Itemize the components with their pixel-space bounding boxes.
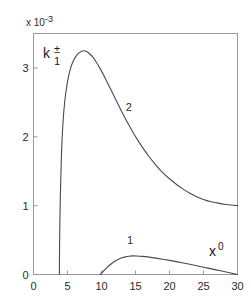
x-axis-title: x 0: [209, 241, 224, 259]
x-tick-label: 25: [197, 280, 209, 292]
y-axis-multiplier-exponent: -3: [45, 14, 53, 24]
x-axis-title-superscript: 0: [218, 241, 224, 252]
x-axis-title-base: x: [209, 243, 216, 259]
y-axis-title-base: k: [43, 45, 51, 61]
y-tick-label: 3: [22, 62, 28, 74]
y-axis-multiplier: x 10-3: [26, 14, 53, 28]
y-tick-label: 1: [22, 200, 28, 212]
chart-figure: 051015202530 0123 12 x 10-3 k ± 1 x 0: [0, 0, 251, 301]
y-axis-multiplier-base: x 10: [26, 17, 45, 28]
y-tick-label: 2: [22, 131, 28, 143]
curve-label-1: 1: [127, 234, 133, 246]
x-tick-label: 0: [30, 280, 36, 292]
curve-annotations: 12: [126, 101, 133, 247]
y-axis-title-superscript: ±: [54, 43, 60, 55]
x-tick-label: 10: [95, 280, 107, 292]
curve-series-2: [59, 51, 237, 275]
line-chart: 051015202530 0123 12 x 10-3 k ± 1 x 0: [0, 0, 251, 301]
y-axis-ticks: [34, 68, 38, 275]
y-axis-title-subscript: 1: [54, 55, 60, 67]
x-tick-label: 15: [129, 280, 141, 292]
x-tick-label: 20: [163, 280, 175, 292]
x-tick-label: 30: [231, 280, 243, 292]
y-axis-tick-labels: 0123: [22, 62, 28, 281]
data-curves: [59, 51, 237, 275]
x-tick-label: 5: [64, 280, 70, 292]
plot-frame: [34, 34, 238, 275]
x-axis-tick-labels: 051015202530: [30, 280, 243, 292]
y-tick-label: 0: [22, 269, 28, 281]
curve-series-1: [100, 256, 237, 275]
x-axis-ticks: [34, 271, 238, 275]
curve-label-2: 2: [126, 101, 132, 113]
y-axis-title: k ± 1: [43, 43, 60, 67]
